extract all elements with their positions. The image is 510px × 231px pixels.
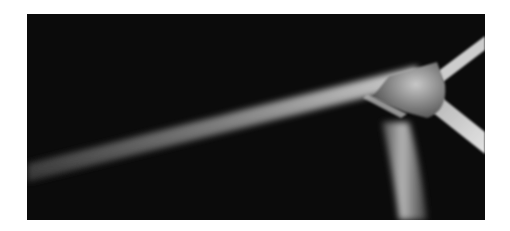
turbine-illustration <box>27 14 485 220</box>
blade-upper-right <box>437 36 485 82</box>
blade-down <box>382 122 427 220</box>
hub <box>372 62 445 118</box>
blade-left <box>27 66 422 182</box>
wind-turbine-photo: Wind turbine blades and nacelle hub, bla… <box>27 14 485 220</box>
